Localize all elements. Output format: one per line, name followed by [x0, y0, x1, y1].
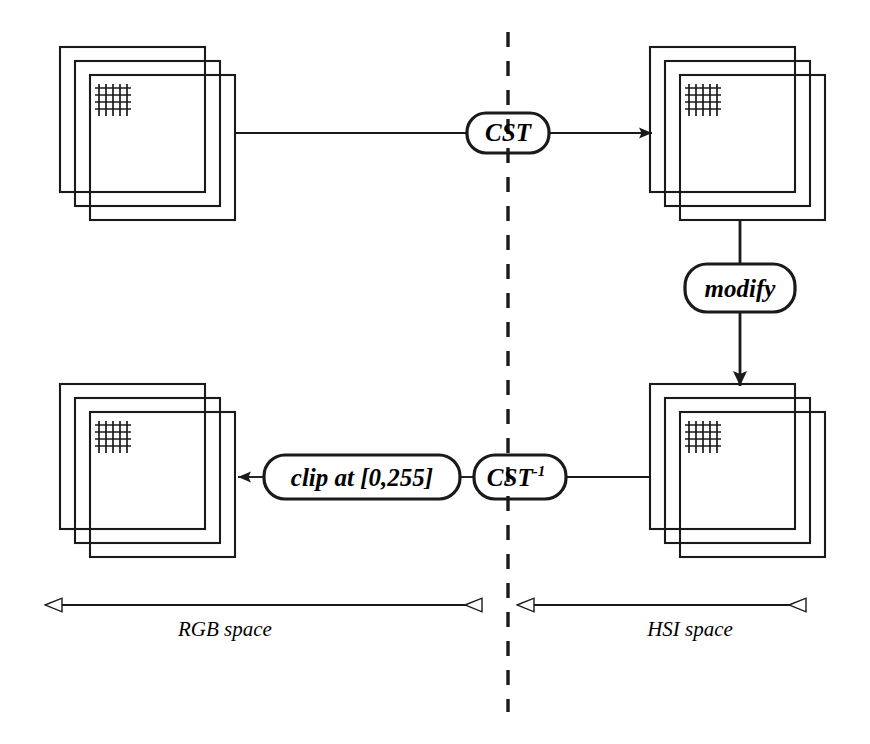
node-cst-inverse[interactable]: CST-1: [474, 455, 566, 499]
node-cst[interactable]: CST: [467, 113, 549, 153]
node-clip[interactable]: clip at [0,255]: [264, 455, 460, 499]
image-stack-rgb-input: [60, 47, 235, 220]
diagram-canvas: CST modify CST-1 clip at [0,255] RGB spa…: [0, 0, 870, 744]
node-cst-inverse-superscript: -1: [533, 463, 546, 479]
image-stack-hsi-modified: [650, 384, 825, 557]
node-clip-label: clip at [0,255]: [291, 464, 433, 491]
node-modify-label: modify: [705, 275, 777, 302]
node-modify[interactable]: modify: [685, 264, 795, 312]
axis-hsi-space: HSI space: [534, 605, 806, 641]
image-stack-rgb-result: [60, 384, 235, 557]
grid-swatch: [95, 421, 131, 453]
grid-swatch: [685, 84, 721, 116]
axis-hsi-space-label: HSI space: [646, 617, 733, 641]
diagram-svg: CST modify CST-1 clip at [0,255] RGB spa…: [0, 0, 870, 744]
axis-rgb-space-label: RGB space: [177, 617, 272, 641]
node-cst-inverse-text: CST-1: [487, 463, 545, 491]
node-cst-label: CST: [485, 119, 533, 146]
axis-rgb-space: RGB space: [62, 605, 482, 641]
node-cst-inverse-label: CST: [487, 464, 535, 491]
grid-swatch: [95, 84, 131, 116]
grid-swatch: [685, 421, 721, 453]
image-stack-hsi-output: [650, 47, 825, 220]
